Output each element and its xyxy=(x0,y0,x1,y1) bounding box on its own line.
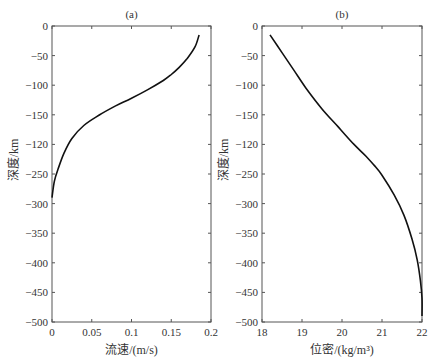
y-tick-label: −350 xyxy=(235,227,258,239)
y-tick-label: −450 xyxy=(25,286,48,298)
y-tick-label: −400 xyxy=(25,257,48,269)
data-line xyxy=(270,35,422,316)
y-tick-label: −120 xyxy=(235,138,258,150)
x-axis-label: 位密/(kg/m³) xyxy=(310,342,374,357)
y-tick-label: −300 xyxy=(235,198,258,210)
y-tick-label: −100 xyxy=(235,79,258,91)
plot-frame xyxy=(52,26,211,322)
y-tick-label: −300 xyxy=(25,198,48,210)
x-tick-label: 18 xyxy=(257,326,269,338)
panel-title: (b) xyxy=(336,8,349,21)
y-tick-label: −120 xyxy=(25,138,48,150)
x-tick-label: 0.05 xyxy=(82,326,102,338)
x-tick-label: 21 xyxy=(377,326,388,338)
y-tick-label: −500 xyxy=(235,316,258,328)
y-tick-label: −250 xyxy=(25,168,48,180)
y-tick-label: 0 xyxy=(43,20,49,32)
y-tick-label: −150 xyxy=(25,109,48,121)
x-tick-label: 22 xyxy=(417,326,428,338)
y-tick-label: −250 xyxy=(235,168,258,180)
x-tick-label: 19 xyxy=(297,326,309,338)
panel-a: 00.050.10.150.20−50−100−150−120−250−300−… xyxy=(6,8,218,357)
y-axis-label: 深度/km xyxy=(216,138,231,181)
figure: 00.050.10.150.20−50−100−150−120−250−300−… xyxy=(0,0,440,363)
y-tick-label: 0 xyxy=(253,20,259,32)
x-tick-label: 0.2 xyxy=(204,326,218,338)
plot-frame xyxy=(262,26,422,322)
data-line xyxy=(52,35,199,198)
x-axis-label: 流速/(m/s) xyxy=(105,343,158,357)
y-axis-label: 深度/km xyxy=(6,138,21,181)
y-tick-label: −400 xyxy=(235,257,258,269)
y-tick-label: −50 xyxy=(241,50,259,62)
x-tick-label: 20 xyxy=(337,326,349,338)
x-tick-label: 0 xyxy=(49,326,55,338)
y-tick-label: −100 xyxy=(25,79,48,91)
x-tick-label: 0.15 xyxy=(162,326,182,338)
y-tick-label: −350 xyxy=(25,227,48,239)
panel-title: (a) xyxy=(125,8,138,21)
y-tick-label: −450 xyxy=(235,286,258,298)
panel-b: 18192021220−50−100−150−120−250−300−350−4… xyxy=(216,8,428,357)
y-tick-label: −500 xyxy=(25,316,48,328)
x-tick-label: 0.1 xyxy=(125,326,139,338)
y-tick-label: −50 xyxy=(31,50,49,62)
y-tick-label: −150 xyxy=(235,109,258,121)
